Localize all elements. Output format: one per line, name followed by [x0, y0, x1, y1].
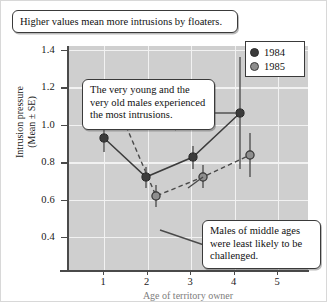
datapoint-1985-4 — [246, 151, 254, 159]
legend: 1984 1985 — [245, 41, 305, 77]
legend-marker-1984-icon — [250, 48, 259, 57]
legend-marker-1985-icon — [250, 62, 259, 71]
leader-line-bottom-callout — [160, 230, 204, 245]
leader-line-bottom-callout-up — [188, 177, 203, 188]
datapoint-1984-3 — [189, 153, 197, 161]
datapoint-1985-2 — [152, 192, 160, 200]
callout-middle: The very young and the very old males ex… — [82, 79, 215, 130]
datapoint-1984-2 — [142, 173, 150, 181]
callout-bottom: Males of middle ages were least likely t… — [202, 220, 321, 269]
legend-item-1985: 1985 — [250, 59, 300, 73]
datapoint-1984-1 — [100, 134, 108, 142]
datapoint-1984-4 — [236, 109, 244, 117]
chart-figure: 1.4 1.2 1.0 0.8 0.6 0.4 1 2 3 4 5 Intrus… — [0, 0, 327, 302]
legend-label-1984: 1984 — [264, 47, 285, 58]
legend-item-1984: 1984 — [250, 45, 300, 59]
callout-top: Higher values mean more intrusions by fl… — [12, 10, 238, 33]
legend-label-1985: 1985 — [264, 61, 285, 72]
